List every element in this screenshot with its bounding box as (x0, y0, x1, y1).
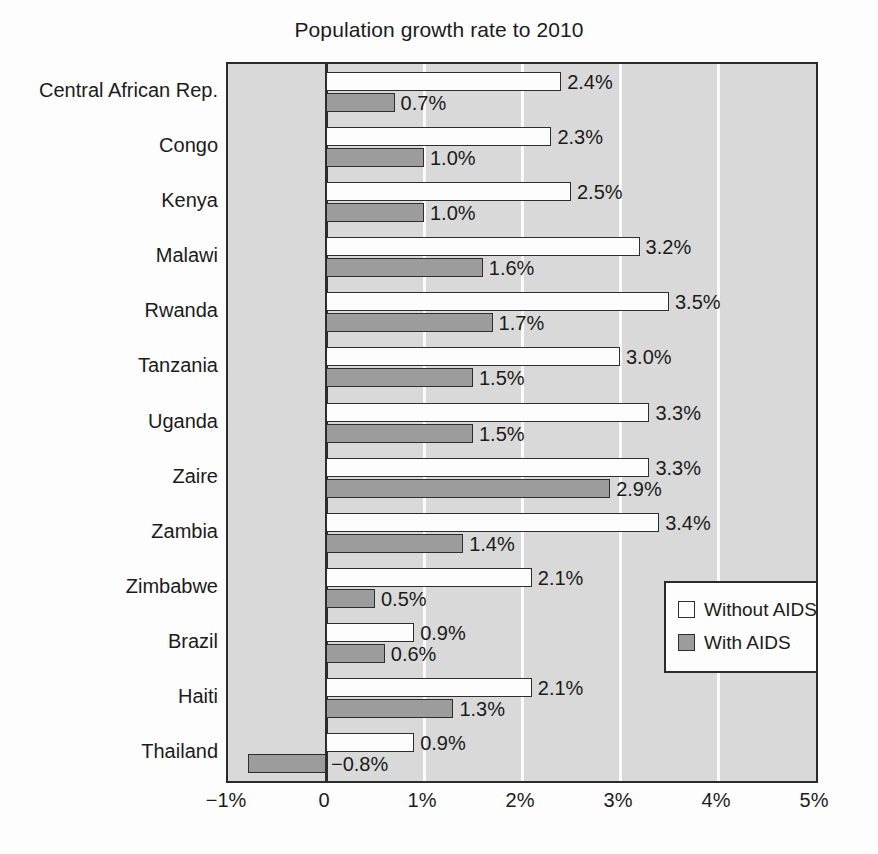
bar-without-aids (326, 568, 532, 587)
bar-value-label: 0.9% (420, 624, 466, 643)
y-axis-label: Rwanda (12, 299, 218, 322)
x-axis-labels: −1%01%2%3%4%5% (226, 789, 818, 829)
legend-label-without-aids: Without AIDS (704, 599, 817, 621)
bar-without-aids (326, 292, 669, 311)
plot-inner: 2.4%0.7%2.3%1.0%2.5%1.0%3.2%1.6%3.5%1.7%… (228, 64, 816, 781)
bar-value-label: 3.0% (626, 348, 672, 367)
y-axis-label: Uganda (12, 410, 218, 433)
bar-value-label: 0.7% (401, 94, 447, 113)
bar-value-label: 1.0% (430, 149, 476, 168)
y-axis-label: Kenya (12, 189, 218, 212)
bar-with-aids (326, 589, 375, 608)
bar-without-aids (326, 347, 620, 366)
bar-value-label: 2.3% (557, 128, 603, 147)
bar-value-label: 1.5% (479, 425, 525, 444)
bar-value-label: −0.8% (331, 755, 388, 774)
x-axis-tick-label: 2% (506, 789, 535, 812)
bar-with-aids (326, 368, 473, 387)
bar-with-aids (248, 754, 326, 773)
bar-value-label: 1.4% (469, 535, 515, 554)
legend-entry-with-aids: With AIDS (678, 626, 816, 659)
bar-value-label: 3.3% (655, 459, 701, 478)
bar-value-label: 2.5% (577, 183, 623, 202)
bar-value-label: 0.5% (381, 590, 427, 609)
bar-value-label: 0.6% (391, 645, 437, 664)
bar-with-aids (326, 203, 424, 222)
bar-without-aids (326, 182, 571, 201)
y-axis-label: Central African Rep. (12, 79, 218, 102)
x-axis-tick-label: 1% (408, 789, 437, 812)
bar-without-aids (326, 623, 414, 642)
bar-with-aids (326, 699, 453, 718)
gridline-1 (423, 64, 426, 781)
x-axis-tick-label: 5% (800, 789, 829, 812)
bar-with-aids (326, 93, 395, 112)
legend-label-with-aids: With AIDS (704, 632, 791, 654)
bar-without-aids (326, 237, 640, 256)
y-axis-label: Zambia (12, 520, 218, 543)
chart-title: Population growth rate to 2010 (0, 18, 878, 42)
gridline-4 (717, 64, 720, 781)
y-axis-label: Zimbabwe (12, 575, 218, 598)
x-axis-tick-label: 3% (604, 789, 633, 812)
bar-with-aids (326, 148, 424, 167)
y-axis-labels: Central African Rep.CongoKenyaMalawiRwan… (8, 62, 218, 783)
bar-without-aids (326, 733, 414, 752)
x-axis-tick-label: −1% (206, 789, 247, 812)
bar-value-label: 1.5% (479, 369, 525, 388)
bar-with-aids (326, 313, 493, 332)
y-axis-label: Tanzania (12, 354, 218, 377)
chart-legend: Without AIDS With AIDS (664, 581, 818, 673)
bar-value-label: 3.2% (646, 238, 692, 257)
bar-with-aids (326, 479, 610, 498)
zero-axis-line (325, 64, 328, 781)
bar-value-label: 1.7% (499, 314, 545, 333)
bar-value-label: 2.1% (538, 569, 584, 588)
y-axis-label: Congo (12, 134, 218, 157)
bar-without-aids (326, 403, 649, 422)
bar-value-label: 0.9% (420, 734, 466, 753)
bar-without-aids (326, 458, 649, 477)
bar-value-label: 2.1% (538, 679, 584, 698)
bar-without-aids (326, 72, 561, 91)
x-axis-tick-label: 0 (318, 789, 329, 812)
bar-value-label: 1.6% (489, 259, 535, 278)
gridline-3 (619, 64, 622, 781)
bar-without-aids (326, 513, 659, 532)
bar-value-label: 1.0% (430, 204, 476, 223)
legend-swatch-with-aids (678, 634, 695, 651)
bar-with-aids (326, 644, 385, 663)
bar-with-aids (326, 424, 473, 443)
bar-value-label: 3.4% (665, 514, 711, 533)
y-axis-label: Thailand (12, 740, 218, 763)
plot-area: 2.4%0.7%2.3%1.0%2.5%1.0%3.2%1.6%3.5%1.7%… (226, 62, 818, 783)
bar-without-aids (326, 678, 532, 697)
legend-entry-without-aids: Without AIDS (678, 593, 816, 626)
y-axis-label: Brazil (12, 630, 218, 653)
bar-without-aids (326, 127, 551, 146)
bar-with-aids (326, 534, 463, 553)
bar-with-aids (326, 258, 483, 277)
legend-swatch-without-aids (678, 601, 695, 618)
x-axis-tick-label: 4% (702, 789, 731, 812)
bar-value-label: 1.3% (459, 700, 505, 719)
y-axis-label: Zaire (12, 465, 218, 488)
y-axis-label: Malawi (12, 244, 218, 267)
bar-value-label: 2.9% (616, 480, 662, 499)
bar-value-label: 3.5% (675, 293, 721, 312)
bar-value-label: 3.3% (655, 404, 701, 423)
chart-figure: Population growth rate to 2010 Central A… (0, 0, 878, 854)
bar-value-label: 2.4% (567, 73, 613, 92)
y-axis-label: Haiti (12, 685, 218, 708)
